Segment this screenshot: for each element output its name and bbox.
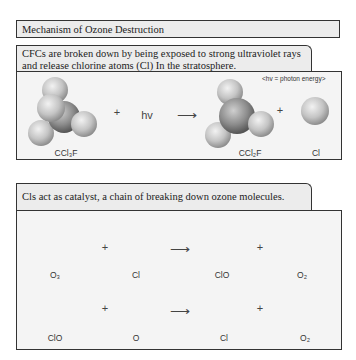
plus-operator: + — [277, 104, 283, 116]
label-o2: O₂ — [297, 270, 307, 280]
cl-atom — [301, 97, 329, 125]
plus-operator: + — [257, 241, 263, 253]
plus-operator: + — [102, 241, 108, 253]
label-cl: Cl — [312, 148, 320, 158]
plus-operator: + — [114, 106, 120, 118]
label-o2: O₂ — [300, 333, 310, 343]
reaction-arrow: ⟶ — [170, 303, 190, 319]
label-clo: ClO — [48, 333, 63, 343]
ccl3f-molecule — [28, 77, 97, 146]
label-ccl2f: CCl₂F — [239, 148, 262, 158]
plus-operator: + — [257, 302, 263, 314]
plus-operator: + — [102, 302, 108, 314]
label-clo: ClO — [215, 270, 230, 280]
label-cl: Cl — [132, 270, 140, 280]
label-cl: Cl — [220, 333, 228, 343]
label-o3: O₃ — [50, 270, 60, 280]
reaction-arrow: ⟶ — [177, 107, 197, 123]
photon-symbol: hv — [141, 109, 153, 121]
reaction-arrow: ⟶ — [170, 241, 190, 257]
section2-header: Cls act as catalyst, a chain of breaking… — [16, 183, 312, 211]
label-o: O — [133, 333, 140, 343]
section2-panel — [16, 210, 342, 350]
label-ccl3f: CCl₃F — [55, 148, 78, 158]
ccl2f-molecule — [205, 79, 274, 148]
